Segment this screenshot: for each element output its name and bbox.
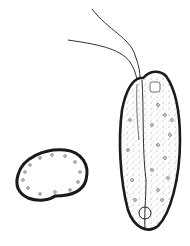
rounded-cell-body <box>17 150 87 200</box>
elongated-cell <box>120 72 180 230</box>
illustration <box>0 0 190 246</box>
reservoir <box>150 82 160 92</box>
flagella <box>68 9 140 80</box>
flagellum-2 <box>68 40 137 80</box>
rounded-cell <box>17 150 87 200</box>
